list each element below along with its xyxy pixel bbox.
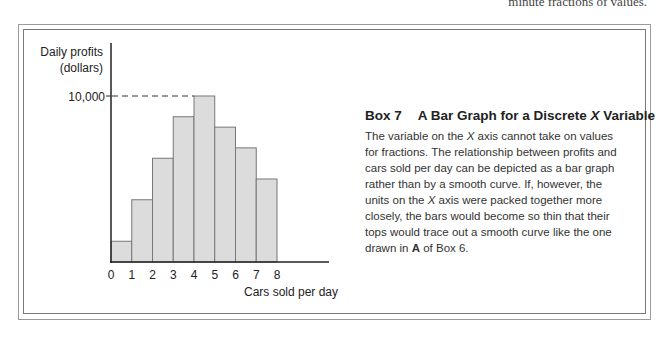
- x-tick-label: 1: [125, 268, 139, 282]
- body-text: of Box 6.: [420, 242, 469, 254]
- x-tick-label: 7: [249, 268, 263, 282]
- bar-6: [236, 148, 257, 262]
- x-tick-label: 2: [146, 268, 160, 282]
- x-tick-label: 4: [187, 268, 201, 282]
- box-title-suffix: Variable: [600, 108, 656, 123]
- bar-2: [153, 158, 174, 262]
- x-tick-label: 3: [166, 268, 180, 282]
- bar-1: [132, 200, 153, 262]
- box-title-prefix: A Bar Graph for a Discrete: [418, 108, 591, 123]
- x-tick-label: 6: [229, 268, 243, 282]
- box-title: Box 7A Bar Graph for a Discrete X Variab…: [365, 108, 655, 123]
- box-number: Box 7: [365, 108, 402, 123]
- box-title-variable: X: [591, 108, 600, 123]
- body-text: The variable on the: [365, 130, 467, 142]
- bar-7: [256, 179, 277, 262]
- x-tick-label: 5: [208, 268, 222, 282]
- x-axis-label: Cars sold per day: [244, 285, 338, 299]
- bar-4: [194, 96, 215, 262]
- bar-3: [173, 117, 194, 262]
- x-tick-label: 8: [270, 268, 284, 282]
- body-bold-a: A: [412, 242, 420, 254]
- x-tick-label: 0: [104, 268, 118, 282]
- box-body: The variable on the X axis cannot take o…: [365, 128, 625, 256]
- bar-5: [215, 127, 236, 262]
- bar-0: [111, 241, 132, 262]
- bars-group: [111, 96, 277, 262]
